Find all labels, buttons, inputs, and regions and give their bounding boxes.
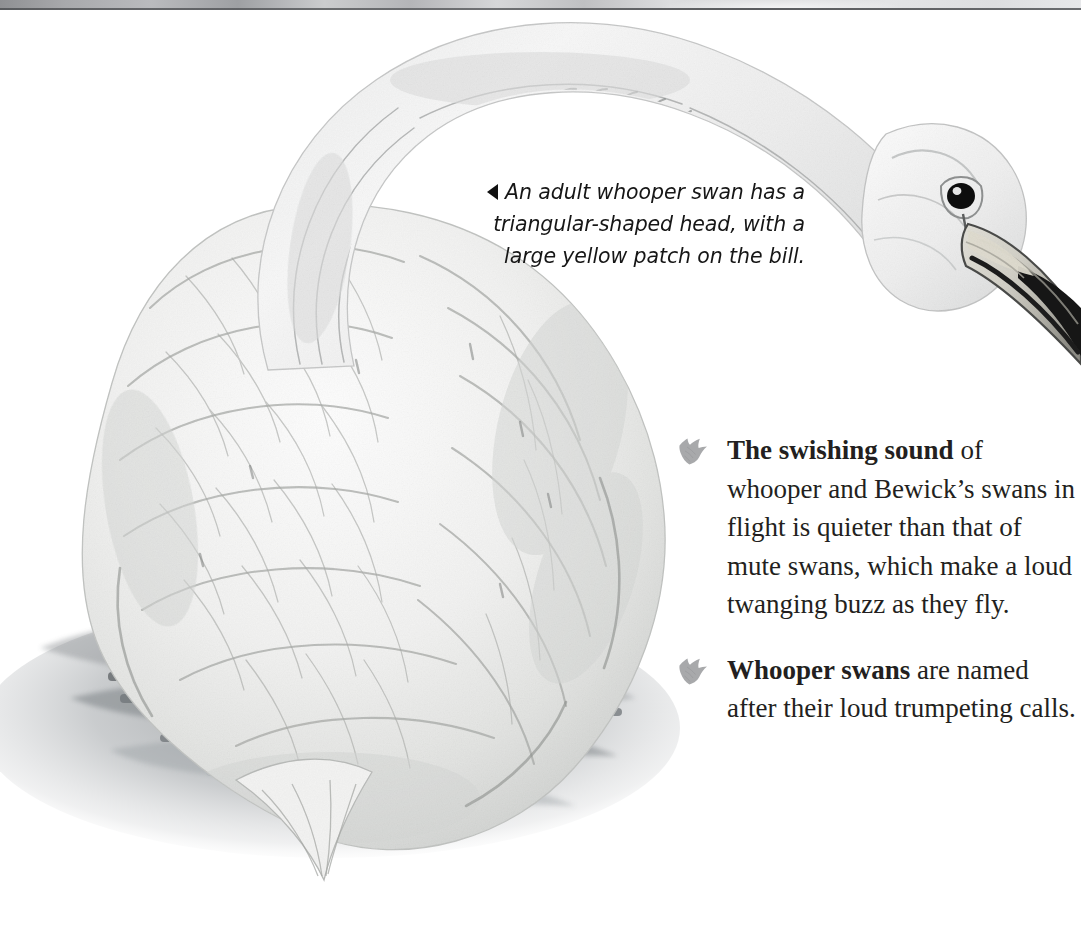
left-triangle-icon: [487, 184, 498, 200]
feather-bullet-icon: [678, 658, 708, 685]
caption-text: An adult whooper swan has a triangular-s…: [493, 180, 805, 268]
fact-item: Whooper swans are named after their loud…: [676, 651, 1076, 728]
fact-lead: Whooper swans: [727, 655, 910, 685]
fact-item: The swishing sound of whooper and Bewick…: [676, 431, 1076, 624]
feather-bullet-icon: [678, 438, 708, 465]
page-root: An adult whooper swan has a triangular-s…: [0, 0, 1081, 948]
fact-lead: The swishing sound: [727, 435, 954, 465]
fact-list: The swishing sound of whooper and Bewick…: [676, 404, 1076, 754]
swan-head-caption: An adult whooper swan has a triangular-s…: [470, 176, 805, 272]
swan-head: [862, 124, 1081, 364]
